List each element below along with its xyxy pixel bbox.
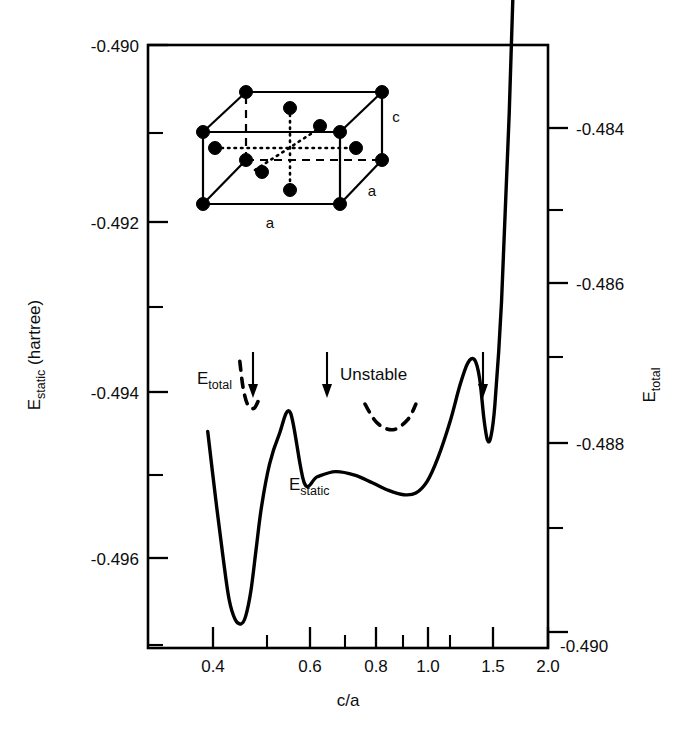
y2-tick-label-2: -0.488 xyxy=(576,435,624,454)
y2-axis-title: Etotal xyxy=(640,368,663,403)
x-tick-label-2: 0.8 xyxy=(364,657,388,676)
atom xyxy=(284,102,297,115)
label-e-static: Estatic xyxy=(289,475,330,498)
atom xyxy=(376,86,389,99)
inset-label-c: c xyxy=(392,108,400,125)
unit-cell-inset: a a c xyxy=(197,86,401,232)
y-tick-label-0: -0.490 xyxy=(91,37,139,56)
label-e-total: Etotal xyxy=(197,369,232,392)
y2-tick-label-3: -0.490 xyxy=(560,637,608,656)
svg-text:Estatic (hartree): Estatic (hartree) xyxy=(25,300,48,410)
y-axis-title-main: E xyxy=(25,399,44,410)
svg-text:Etotal: Etotal xyxy=(640,368,663,403)
y-axis-title-sub: static xyxy=(34,370,48,399)
x-tick-label-0: 0.4 xyxy=(201,657,225,676)
x-axis-ticks xyxy=(213,627,548,648)
y2-axis-title-sub: total xyxy=(649,368,663,392)
inset-label-a-bottom: a xyxy=(266,214,275,231)
arrow-unstable-middle xyxy=(322,352,332,398)
atom xyxy=(350,142,363,155)
y-tick-label-1: -0.492 xyxy=(91,214,139,233)
y-axis-title: Estatic (hartree) xyxy=(25,300,48,410)
y2-tick-label-1: -0.486 xyxy=(576,275,624,294)
left-axis-ticks xyxy=(148,45,168,645)
atom xyxy=(314,120,327,133)
arrow-unstable-left xyxy=(248,352,258,398)
label-unstable: Unstable xyxy=(340,365,407,384)
atom xyxy=(334,126,347,139)
x-tick-label-4: 1.5 xyxy=(481,657,505,676)
x-tick-label-1: 0.6 xyxy=(298,657,322,676)
curve-e-total-right-segment xyxy=(365,404,416,430)
y2-tick-label-0: -0.484 xyxy=(576,120,624,139)
figure-canvas: -0.490 -0.492 -0.494 -0.496 -0.484 -0.48… xyxy=(0,0,692,738)
energy-vs-ca-plot: -0.490 -0.492 -0.494 -0.496 -0.484 -0.48… xyxy=(0,0,692,738)
atom xyxy=(197,198,210,211)
atom xyxy=(334,198,347,211)
atom xyxy=(284,184,297,197)
atom xyxy=(256,166,269,179)
y-tick-label-2: -0.494 xyxy=(91,384,139,403)
x-axis-title: c/a xyxy=(337,691,360,710)
atom xyxy=(197,126,210,139)
atom xyxy=(240,154,253,167)
y-axis-title-unit: (hartree) xyxy=(25,300,44,370)
atom xyxy=(376,154,389,167)
inset-label-a-right: a xyxy=(368,182,377,199)
atom xyxy=(209,142,222,155)
curve-e-static xyxy=(208,0,538,624)
atom xyxy=(240,86,253,99)
y-tick-label-3: -0.496 xyxy=(91,550,139,569)
x-tick-label-5: 2.0 xyxy=(536,657,560,676)
x-tick-label-3: 1.0 xyxy=(416,657,440,676)
right-axis-ticks xyxy=(548,128,568,632)
y2-axis-title-main: E xyxy=(640,391,659,402)
